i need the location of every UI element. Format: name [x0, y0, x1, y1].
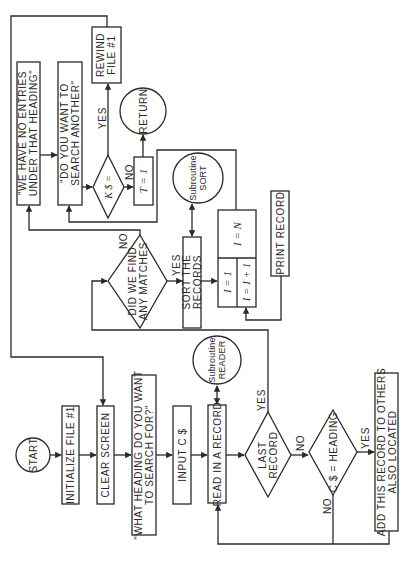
return-label: RETURN — [138, 88, 149, 133]
read-record-label: READ IN A RECORD — [212, 402, 223, 507]
k-yes-label: YES — [97, 107, 108, 129]
sub-sort-line-2: SORT — [198, 155, 208, 201]
no-entries-line-1: "WE HAVE NO ENTRIES — [17, 70, 28, 197]
t-assign-label: T = 1 — [138, 169, 149, 193]
last-record-line-1: LAST — [257, 432, 268, 479]
loop-increment-label: I = I + 1 — [241, 263, 252, 302]
search-another-line-2: SEARCH ANOTHER" — [70, 80, 81, 185]
search-another-label: "DO YOU WANT TO SEARCH ANOTHER" — [59, 80, 81, 185]
prompt-heading-line-1: "WHAT HEADING DO YOU WANT — [133, 370, 144, 539]
loop-limit-label: I = N — [232, 222, 243, 246]
sub-reader-line-2: READER — [217, 337, 227, 383]
add-record-label: ADD THIS RECORD TO OTHERS ALSO LOCATED — [376, 368, 398, 536]
last-record-no-label: NO — [295, 435, 306, 451]
rewind-line-1: REWIND — [95, 33, 106, 77]
c-heading-no-label: NO — [322, 498, 333, 514]
c-heading-label: C $ = HEADING — [328, 412, 339, 492]
clear-screen-label: CLEAR SCREEN — [100, 413, 111, 498]
k-decision-label: K $ = — [103, 175, 114, 198]
last-record-line-2: RECORD — [268, 432, 279, 479]
no-entries-label: "WE HAVE NO ENTRIES UNDER THAT HEADING" — [17, 70, 39, 197]
init-file-label: INITIALIZE FILE #1 — [65, 406, 76, 504]
add-record-line-2: ALSO LOCATED — [387, 368, 398, 536]
prompt-heading-label: "WHAT HEADING DO YOU WANT TO SEARCH FOR?… — [133, 370, 155, 539]
rewind-label: REWIND FILE #1 — [95, 33, 117, 77]
any-matches-no-label: NO — [118, 233, 129, 249]
no-entries-line-2: UNDER THAT HEADING" — [28, 70, 39, 197]
sort-records-line-2: RECORDS — [192, 255, 203, 310]
search-another-line-1: "DO YOU WANT TO — [59, 80, 70, 185]
k-no-label: NO — [124, 164, 135, 180]
sort-records-line-1: SORT THE — [181, 255, 192, 310]
start-label: START — [28, 438, 39, 473]
any-matches-line-1: DID WE FIND — [127, 242, 138, 320]
input-c-label: INPUT C $ — [177, 428, 188, 482]
sub-reader-line-1: Subroutine — [207, 337, 217, 383]
sort-records-label: SORT THE RECORDS — [181, 255, 203, 310]
loop-init-label: I = 1 — [222, 271, 233, 293]
prompt-heading-line-2: TO SEARCH FOR?" — [144, 370, 155, 539]
add-record-line-1: ADD THIS RECORD TO OTHERS — [376, 368, 387, 536]
print-record-label: PRINT RECORD — [275, 191, 286, 274]
sub-sort-line-1: Subroutine — [188, 155, 198, 201]
any-matches-line-2: ANY MATCHES — [138, 242, 149, 320]
sub-reader-label: Subroutine READER — [207, 337, 227, 383]
sub-sort-label: Subroutine SORT — [188, 155, 208, 201]
c-heading-yes-label: YES — [360, 427, 371, 449]
any-matches-yes-label: YES — [171, 254, 182, 276]
last-record-yes-label: YES — [256, 389, 267, 411]
any-matches-label: DID WE FIND ANY MATCHES — [127, 242, 149, 320]
last-record-label: LAST RECORD — [257, 432, 279, 479]
rewind-line-2: FILE #1 — [106, 33, 117, 77]
